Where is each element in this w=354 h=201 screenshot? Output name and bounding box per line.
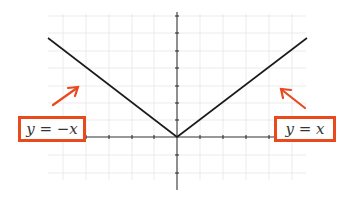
label-y-equals-negative-x: y = −x bbox=[18, 116, 86, 142]
graph-canvas bbox=[0, 0, 354, 201]
arrow-up-left-icon bbox=[281, 89, 305, 108]
absolute-value-diagram: y = −x y = x bbox=[0, 0, 354, 201]
label-text: y = x bbox=[285, 120, 324, 138]
annotation-arrows bbox=[53, 87, 305, 108]
arrow-up-right-icon bbox=[53, 87, 78, 105]
axes bbox=[48, 12, 306, 190]
label-text: y = −x bbox=[26, 120, 78, 138]
label-y-equals-x: y = x bbox=[274, 116, 336, 142]
